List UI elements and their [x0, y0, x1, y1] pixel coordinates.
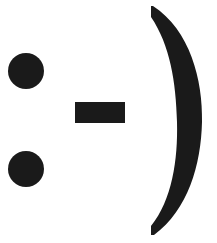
mouth-parenthesis [151, 6, 202, 235]
eye-bottom-dot [8, 151, 44, 187]
eye-top-dot [8, 53, 44, 89]
nose-dash [75, 102, 125, 123]
emoticon: :-) [0, 0, 217, 243]
smiley-icon [0, 0, 217, 243]
